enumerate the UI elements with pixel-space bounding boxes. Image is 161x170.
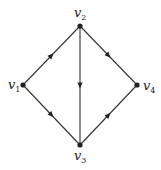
vertex-v1 <box>20 82 25 87</box>
vertex-v2 <box>77 23 82 28</box>
vertex-v4 <box>134 82 139 87</box>
edges-group <box>23 26 137 145</box>
vertex-label-v2: v2 <box>74 5 86 22</box>
vertex-label-v1: v1 <box>8 77 20 94</box>
arrowhead-icon <box>77 83 82 89</box>
vertex-label-v4: v4 <box>143 78 155 95</box>
labels-group: v1v2v3v4 <box>8 5 155 165</box>
directed-graph-diagram: v1v2v3v4 <box>0 0 161 170</box>
vertex-v3 <box>77 142 82 147</box>
vertex-label-v3: v3 <box>74 148 86 165</box>
